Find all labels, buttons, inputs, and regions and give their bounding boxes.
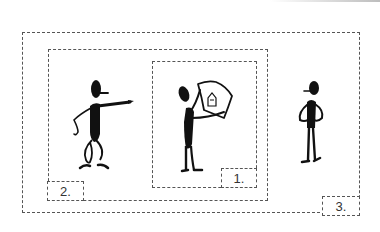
holding-sheet-figure-icon [172, 78, 242, 178]
frame-3-label: 3. [322, 196, 360, 216]
pointing-figure-icon [60, 76, 140, 176]
scan-edge-line [270, 0, 380, 2]
frame-2-label: 2. [47, 181, 84, 201]
frame-3-label-text: 3. [336, 199, 347, 214]
frame-2-label-text: 2. [60, 184, 71, 199]
hands-on-hips-figure-icon [290, 76, 330, 176]
